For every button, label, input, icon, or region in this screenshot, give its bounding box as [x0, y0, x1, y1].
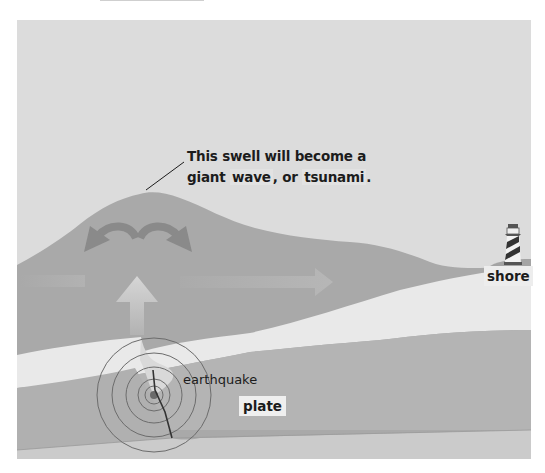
left-propagation-arrow-icon [20, 275, 85, 287]
label-shore: shore [484, 266, 533, 286]
caption-text: This swell will become a giant wave, or … [187, 146, 371, 188]
term-tsunami: tsunami [302, 169, 366, 185]
caption-middle: , or [273, 169, 298, 185]
label-earthquake: earthquake [183, 371, 257, 389]
term-wave: wave [230, 169, 273, 185]
lighthouse-icon [504, 224, 522, 265]
caption-suffix: . [366, 169, 371, 185]
caption-prefix: giant [187, 169, 225, 185]
label-plate: plate [239, 396, 286, 416]
caption-line-1: This swell will become a [187, 146, 371, 167]
caption-line-2: giant wave, or tsunami. [187, 167, 371, 188]
